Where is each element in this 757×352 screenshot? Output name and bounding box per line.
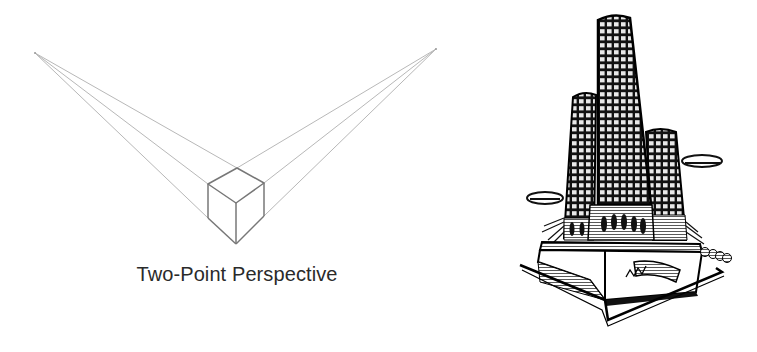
perspective-drawing [0,0,470,300]
two-point-perspective-diagram: Two-Point Perspective [0,0,470,352]
cloud-right [682,155,722,167]
cube [208,168,264,244]
vanishing-guide-lines [35,49,436,218]
podium [520,242,732,326]
cloud-left [527,192,563,204]
skyscraper-illustration [480,0,757,352]
skyscraper-image [480,0,757,352]
left-vanishing-point [34,52,36,54]
diagram-caption: Two-Point Perspective [0,263,474,286]
right-vanishing-point [435,48,437,50]
